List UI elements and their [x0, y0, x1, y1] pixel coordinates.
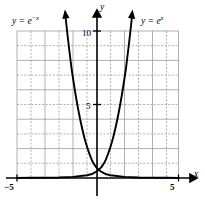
curve-label-exp-x: y = ex	[141, 17, 163, 27]
curve-label-exp-x-text: y = e	[141, 16, 161, 26]
x-axis-label: x	[194, 170, 198, 180]
x-tick-label-neg5: −5	[4, 183, 14, 192]
curve-exp-neg-x-arrowhead	[62, 10, 69, 20]
curve-label-exp-neg-x-exponent: −x	[32, 14, 39, 21]
y-axis-label: y	[100, 3, 104, 13]
curve-exp-neg-x	[62, 10, 178, 178]
curve-label-exp-x-exponent: x	[161, 14, 164, 21]
exponential-functions-graph: y = e−x y = ex y x 10 5 −5 5	[0, 0, 205, 208]
curve-label-exp-neg-x: y = e−x	[12, 17, 39, 27]
y-tick-label-5: 5	[86, 102, 91, 111]
x-tick-label-5: 5	[170, 183, 175, 192]
curve-exp-x-arrowhead	[128, 10, 135, 20]
curve-label-exp-neg-x-text: y = e	[12, 16, 32, 26]
plot-canvas	[0, 0, 205, 208]
y-tick-label-10: 10	[82, 29, 91, 38]
